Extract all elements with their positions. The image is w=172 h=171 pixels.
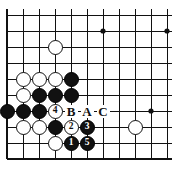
stone-number: 2	[69, 122, 73, 132]
stone-black[interactable]	[0, 104, 15, 119]
stone-black-3[interactable]: 3	[80, 120, 95, 135]
stone-black[interactable]	[32, 104, 47, 119]
star-point	[148, 108, 153, 113]
stone-white[interactable]	[48, 72, 63, 87]
stone-number: 3	[85, 122, 89, 132]
stone-black[interactable]	[64, 72, 79, 87]
stone-white[interactable]	[32, 120, 47, 135]
stone-number: 4	[53, 106, 57, 116]
star-point	[164, 28, 169, 33]
stone-black[interactable]	[48, 88, 63, 103]
stone-black-1[interactable]: 1	[64, 136, 79, 151]
stone-black[interactable]	[48, 120, 63, 135]
stone-white[interactable]	[16, 72, 31, 87]
stone-number: 1	[69, 138, 73, 148]
point-label-a[interactable]: A	[81, 105, 94, 118]
stone-white[interactable]	[16, 88, 31, 103]
stone-black-5[interactable]: 5	[80, 136, 95, 151]
stone-black[interactable]	[32, 88, 47, 103]
stone-white[interactable]	[48, 40, 63, 55]
stone-black[interactable]	[64, 88, 79, 103]
stone-white-2[interactable]: 2	[64, 120, 79, 135]
star-point	[100, 28, 105, 33]
point-label-c[interactable]: C	[97, 105, 110, 118]
stone-white[interactable]	[32, 72, 47, 87]
stone-white[interactable]	[16, 120, 31, 135]
stone-black[interactable]	[16, 104, 31, 119]
stone-white[interactable]	[48, 136, 63, 151]
point-label-b[interactable]: B	[65, 105, 78, 118]
go-diagram: 42315 BAC	[0, 0, 172, 171]
stone-number: 5	[85, 138, 89, 148]
stone-white[interactable]	[128, 120, 143, 135]
stone-white-4[interactable]: 4	[48, 104, 63, 119]
